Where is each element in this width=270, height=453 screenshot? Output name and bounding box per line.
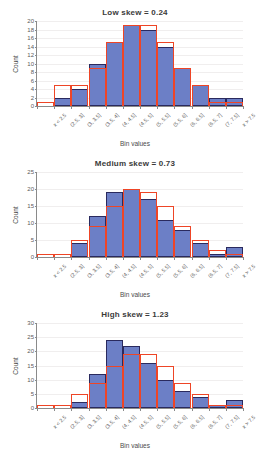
y-axis-tick-mark — [35, 81, 37, 82]
x-axis-tick-mark — [209, 257, 210, 260]
expected-step-outline — [37, 405, 54, 408]
chart-panel-medium-skew: Medium skew = 0.73 Count 0510152025 x < … — [0, 151, 270, 302]
x-axis-ticks-low-skew: x < 2.5(2.5, 3](3, 3.5](3.5, 4](4, 4.5](… — [36, 110, 242, 144]
x-axis-tick-mark — [123, 106, 124, 109]
x-axis-tick-label: (3, 3.5] — [86, 263, 102, 279]
y-axis-tick-mark — [35, 394, 37, 395]
chart-title-high-skew: High skew = 1.23 — [0, 310, 270, 319]
x-axis-tick-mark — [71, 257, 72, 260]
chart-panel-high-skew: High skew = 1.23 Count 051015202530 x < … — [0, 302, 270, 453]
expected-step-outline — [157, 366, 174, 409]
y-axis-tick-mark — [35, 47, 37, 48]
x-axis-tick-mark — [106, 408, 107, 411]
y-axis-tick-mark — [35, 380, 37, 381]
x-axis-tick-mark — [174, 106, 175, 109]
x-axis-tick-label: (6.5, 7] — [206, 112, 222, 128]
x-axis-tick-mark — [192, 106, 193, 109]
x-axis-tick-mark — [123, 257, 124, 260]
y-axis-tick-mark — [35, 323, 37, 324]
x-axis-tick-mark — [174, 408, 175, 411]
x-axis-tick-label: (7, 7.5] — [224, 414, 240, 430]
x-axis-tick-label: (4, 4.5] — [121, 263, 137, 279]
grid-line — [37, 21, 243, 22]
x-axis-tick-mark — [140, 106, 141, 109]
x-axis-tick-mark — [106, 106, 107, 109]
x-axis-tick-label: (6, 6.5] — [189, 263, 205, 279]
expected-step-outline — [226, 102, 243, 106]
expected-step-outline — [54, 254, 71, 257]
x-axis-tick-label: (4.5, 5] — [138, 263, 154, 279]
expected-step-outline — [71, 394, 88, 408]
x-axis-tick-mark — [54, 408, 55, 411]
x-axis-tick-label: x < 2.5 — [52, 414, 68, 430]
x-axis-tick-label: (5.5, 6] — [172, 414, 188, 430]
x-axis-tick-mark — [209, 106, 210, 109]
x-axis-tick-label: (3, 3.5] — [86, 414, 102, 430]
expected-step-outline — [123, 354, 140, 408]
x-axis-tick-label: (2.5, 3] — [69, 414, 85, 430]
grid-line — [37, 351, 243, 352]
x-axis-tick-mark — [157, 106, 158, 109]
x-axis-tick-mark — [243, 106, 244, 109]
x-axis-tick-mark — [226, 408, 227, 411]
expected-step-outline — [192, 85, 209, 106]
expected-step-outline — [209, 250, 226, 257]
x-axis-tick-mark — [71, 408, 72, 411]
expected-step-outline — [226, 405, 243, 408]
expected-step-outline — [106, 42, 123, 106]
expected-step-outline — [140, 25, 157, 106]
x-axis-tick-label: (7, 7.5] — [224, 263, 240, 279]
expected-step-outline — [209, 102, 226, 106]
x-axis-label-low-skew: Bin values — [0, 140, 270, 147]
x-axis-tick-mark — [209, 408, 210, 411]
x-axis-tick-mark — [54, 257, 55, 260]
x-axis-ticks-high-skew: x < 2.5(2.5, 3](3, 3.5](3.5, 4](4, 4.5](… — [36, 412, 242, 446]
chart-title-medium-skew: Medium skew = 0.73 — [0, 159, 270, 168]
y-axis-tick-mark — [35, 172, 37, 173]
x-axis-tick-mark — [89, 408, 90, 411]
x-axis-tick-mark — [140, 257, 141, 260]
x-axis-tick-label: (3, 3.5] — [86, 112, 102, 128]
x-axis-tick-mark — [123, 408, 124, 411]
y-axis-tick-mark — [35, 38, 37, 39]
x-axis-tick-mark — [192, 408, 193, 411]
grid-line — [37, 323, 243, 324]
x-axis-tick-mark — [106, 257, 107, 260]
x-axis-tick-label: (7, 7.5] — [224, 112, 240, 128]
x-axis-tick-label: (5.5, 6] — [172, 112, 188, 128]
y-axis-tick-mark — [35, 351, 37, 352]
y-axis-label: Count — [12, 357, 19, 374]
x-axis-tick-mark — [157, 257, 158, 260]
expected-step-outline — [123, 25, 140, 106]
expected-step-outline — [71, 85, 88, 106]
y-axis-tick-mark — [35, 366, 37, 367]
x-axis-tick-mark — [174, 257, 175, 260]
x-axis-tick-label: (4, 4.5] — [121, 112, 137, 128]
grid-line — [37, 337, 243, 338]
x-axis-ticks-medium-skew: x < 2.5(2.5, 3](3, 3.5](3.5, 4](4, 4.5](… — [36, 261, 242, 295]
x-axis-label-medium-skew: Bin values — [0, 291, 270, 298]
plot-area-medium-skew: 0510152025 — [36, 172, 243, 258]
expected-step-outline — [157, 42, 174, 106]
x-axis-tick-label: (4.5, 5] — [138, 414, 154, 430]
expected-step-outline — [174, 383, 191, 409]
x-axis-tick-mark — [243, 408, 244, 411]
y-axis-label: Count — [12, 206, 19, 223]
expected-step-outline — [140, 192, 157, 257]
x-axis-tick-label: (3.5, 4] — [103, 263, 119, 279]
expected-step-outline — [89, 383, 106, 409]
x-axis-tick-mark — [89, 257, 90, 260]
expected-step-outline — [54, 85, 71, 106]
x-axis-tick-label: (2.5, 3] — [69, 112, 85, 128]
x-axis-tick-label: (5, 5.5] — [155, 112, 171, 128]
y-axis-tick-mark — [35, 206, 37, 207]
expected-step-outline — [89, 226, 106, 257]
grid-line — [37, 189, 243, 190]
x-axis-tick-label: (4.5, 5] — [138, 112, 154, 128]
expected-step-outline — [140, 354, 157, 408]
chart-panel-low-skew: Low skew = 0.24 Count 02468101214161820 … — [0, 0, 270, 151]
x-axis-tick-mark — [226, 257, 227, 260]
y-axis-tick-mark — [35, 30, 37, 31]
y-axis-tick-mark — [35, 89, 37, 90]
x-axis-tick-mark — [71, 106, 72, 109]
